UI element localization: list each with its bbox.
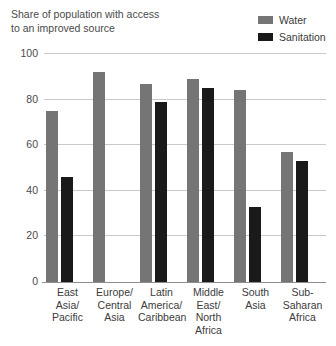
x-tick-label: South Asia: [232, 286, 279, 311]
bar-group: [232, 54, 279, 282]
bar-water: [46, 111, 58, 282]
legend-swatch-sanitation: [258, 33, 273, 41]
bar-water: [281, 152, 293, 282]
bar-group: [185, 54, 232, 282]
bar-chart: Share of population with access to an im…: [0, 0, 336, 346]
y-tick-label: 80: [8, 93, 38, 105]
bar-water: [234, 90, 246, 282]
chart-title: Share of population with access to an im…: [11, 8, 221, 35]
x-axis-tick-labels: East Asia/ PacificEurope/ Central AsiaLa…: [44, 286, 326, 344]
y-tick-label: 100: [8, 47, 38, 59]
bar-sanitation: [249, 207, 261, 282]
legend-item-sanitation: Sanitation: [258, 28, 336, 45]
x-tick-label: Latin America/ Caribbean: [138, 286, 185, 324]
legend-label-water: Water: [279, 14, 307, 26]
x-tick-label: Sub- Saharan Africa: [279, 286, 326, 324]
bar-water: [93, 72, 105, 282]
chart-legend: Water Sanitation: [258, 11, 336, 45]
bar-water: [140, 84, 152, 282]
bar-sanitation: [61, 177, 73, 282]
bar-sanitation: [296, 161, 308, 282]
bar-group: [279, 54, 326, 282]
plot-area: [44, 54, 326, 282]
y-tick-label: 20: [8, 229, 38, 241]
bar-group: [91, 54, 138, 282]
legend-item-water: Water: [258, 11, 336, 28]
y-tick-label: 0: [8, 275, 38, 287]
bar-water: [187, 79, 199, 282]
bar-sanitation: [155, 102, 167, 282]
legend-swatch-water: [258, 16, 273, 24]
bar-group: [138, 54, 185, 282]
legend-label-sanitation: Sanitation: [279, 31, 326, 43]
bar-group: [44, 54, 91, 282]
bar-sanitation: [202, 88, 214, 282]
y-tick-label: 40: [8, 184, 38, 196]
x-axis-line: [42, 282, 326, 283]
y-tick-label: 60: [8, 138, 38, 150]
x-tick-label: Europe/ Central Asia: [91, 286, 138, 324]
x-tick-label: Middle East/ North Africa: [185, 286, 232, 336]
x-tick-label: East Asia/ Pacific: [44, 286, 91, 324]
